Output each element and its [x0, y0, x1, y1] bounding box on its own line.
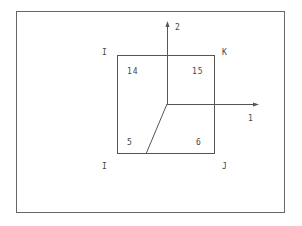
quadrant-number-5: 5 [127, 139, 133, 147]
corner-label-top-right: K [222, 49, 228, 57]
corner-label-bottom-right: J [222, 163, 228, 171]
axis-1-arrow-icon [253, 103, 259, 107]
axis-2-arrow-icon [166, 21, 170, 27]
quadrant-number-14: 14 [127, 68, 139, 76]
corner-label-top-left: I [102, 49, 108, 57]
axis-1-label: 1 [248, 115, 254, 123]
diagonal-line [146, 104, 167, 154]
quadrant-number-15: 15 [192, 68, 204, 76]
outer-frame [17, 12, 285, 213]
axis-2-label: 2 [175, 24, 181, 32]
quadrant-number-6: 6 [196, 139, 202, 147]
corner-label-bottom-left: I [102, 163, 108, 171]
diagram-canvas [0, 0, 302, 226]
